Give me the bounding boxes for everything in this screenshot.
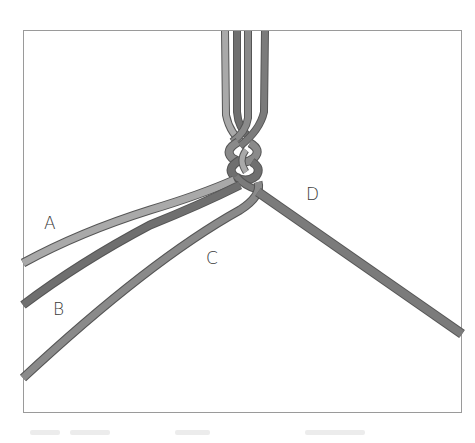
caption-strip: [0, 426, 475, 443]
caption-fragment: [305, 430, 365, 435]
diagram-frame: [24, 31, 462, 413]
label-c: C: [206, 248, 218, 268]
label-d: D: [306, 184, 319, 204]
caption-fragment: [70, 430, 110, 435]
label-a: A: [44, 213, 56, 233]
label-b: B: [53, 299, 64, 319]
caption-fragment: [175, 430, 210, 435]
braid-diagram: A B C D: [0, 0, 475, 443]
caption-fragment: [30, 430, 60, 435]
